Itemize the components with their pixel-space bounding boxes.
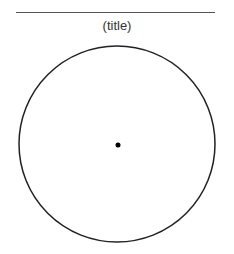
center-point <box>116 143 121 148</box>
circle-diagram <box>0 0 234 254</box>
